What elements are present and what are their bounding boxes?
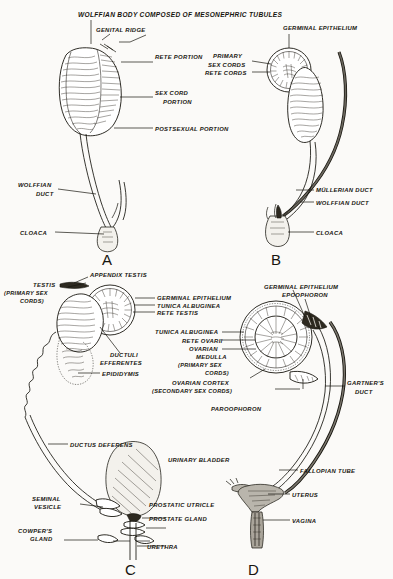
label-testis-line3: CORDS) — [20, 298, 44, 304]
label-cloaca-b: CLOACA — [316, 230, 343, 236]
label-postsexual-portion: POSTSEXUAL PORTION — [155, 126, 229, 132]
label-prostatic-utricle: PROSTATIC UTRICLE — [149, 502, 215, 508]
label-germinal-epithelium-b: GERMINAL EPITHELIUM — [283, 25, 358, 31]
label-seminal-vesicle-line1: SEMINAL — [32, 496, 61, 502]
label-ovarian-medulla-line4: CORDS) — [205, 370, 229, 376]
anatomical-figure: WOLFFIAN BODY COMPOSED OF MESONEPHRIC TU… — [0, 0, 393, 579]
label-ovarian-medulla-line1: OVARIAN — [189, 346, 218, 352]
panel-letter-a: A — [102, 251, 112, 268]
label-ovarian-cortex-line1: OVARIAN CORTEX — [172, 380, 230, 386]
label-vagina: VAGINA — [292, 518, 316, 524]
label-seminal-vesicle-line2: VESICLE — [34, 504, 62, 510]
label-ductuli-efferentes-line1: DUCTULI — [110, 352, 138, 358]
label-testis-line1: TESTIS — [33, 282, 55, 288]
label-cowpers-gland-line2: GLAND — [30, 536, 53, 542]
label-cowpers-gland-line1: COWPER'S — [18, 528, 52, 534]
label-ovarian-medulla-line2: MEDULLA — [196, 354, 227, 360]
label-ovarian-cortex-line2: (SECONDARY SEX CORDS) — [152, 388, 232, 394]
label-rete-cords: RETE CORDS — [205, 70, 247, 76]
label-tunica-albuginea-c: TUNICA ALBUGINEA — [157, 303, 220, 309]
label-ovarian-medulla-line3: (PRIMARY SEX — [178, 362, 223, 368]
label-urethra: URETHRA — [147, 544, 178, 550]
label-germinal-epithelium-c: GERMINAL EPITHELIUM — [157, 295, 232, 301]
panel-letter-d: D — [248, 561, 259, 578]
label-rete-ovarii: RETE OVARII — [182, 338, 223, 344]
panel-d: D GERMINAL EPITHELIUM EPOOPHORON TUNICA … — [152, 284, 384, 578]
label-rete-testis: RETE TESTIS — [157, 310, 198, 316]
label-testis-line2: (PRIMARY SEX — [4, 290, 49, 296]
label-fallopian-tube: FALLOPIAN TUBE — [300, 468, 356, 474]
label-paroophoron: PAROOPHORON — [211, 406, 262, 412]
figure-title: WOLFFIAN BODY COMPOSED OF MESONEPHRIC TU… — [78, 11, 283, 18]
panel-letter-b: B — [271, 251, 281, 268]
label-wolffian-duct-line2: DUCT — [36, 191, 55, 197]
panel-c: C APPENDIX TESTIS TESTIS (PRIMARY SEX CO… — [4, 272, 232, 578]
label-cloaca-a: CLOACA — [20, 230, 47, 236]
label-appendix-testis: APPENDIX TESTIS — [89, 272, 147, 278]
label-urinary-bladder: URINARY BLADDER — [168, 457, 230, 463]
label-ductus-deferens: DUCTUS DEFERENS — [70, 442, 133, 448]
label-prostate-gland: PROSTATE GLAND — [149, 516, 207, 522]
label-germinal-epithelium-d: GERMINAL EPITHELIUM — [264, 284, 339, 290]
label-gartners-duct-line2: DUCT — [355, 389, 374, 395]
label-sex-cord-portion-line2: PORTION — [163, 99, 192, 105]
label-primary-sex-cords-line2: SEX CORDS — [208, 62, 245, 68]
label-tunica-albuginea-d: TUNICA ALBUGINEA — [155, 329, 218, 335]
label-gartners-duct-line1: GARTNER'S — [347, 380, 384, 386]
label-mullerian-duct: MÜLLERIAN DUCT — [316, 187, 374, 193]
label-primary-sex-cords-line1: PRIMARY — [213, 53, 243, 59]
label-wolffian-duct-b: WOLFFIAN DUCT — [316, 200, 370, 206]
label-epoophoron: EPOOPHORON — [282, 292, 328, 298]
label-wolffian-duct-line1: WOLFFIAN — [18, 182, 52, 188]
panel-b: B GERMINAL EPITHELIUM PRIMARY SEX CORDS … — [205, 25, 374, 268]
label-uterus: UTERUS — [292, 492, 318, 498]
panel-a: A GENITAL RIDGE RETE PORTION SEX CORD PO… — [18, 27, 229, 268]
label-sex-cord-portion-line1: SEX CORD — [155, 90, 189, 96]
label-epididymis: EPIDIDYMIS — [102, 371, 139, 377]
label-ductuli-efferentes-line2: EFFERENTES — [100, 360, 142, 366]
label-rete-portion: RETE PORTION — [155, 54, 203, 60]
panel-letter-c: C — [125, 561, 136, 578]
label-genital-ridge: GENITAL RIDGE — [96, 27, 146, 33]
